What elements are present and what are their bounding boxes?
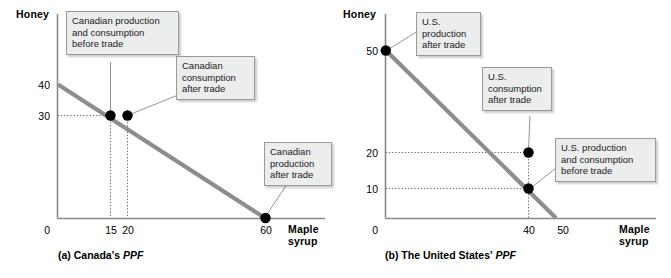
x-tick-40: 40 [514,224,544,236]
point-us-production-after-trade[interactable] [381,45,391,55]
x-tick-50: 50 [548,224,578,236]
chart-panel-united-states: Honey Maple syrup 50 20 10 0 40 50 U.S. … [340,0,671,278]
y-axis-title-honey: Honey [343,9,376,21]
y-tick-10: 10 [346,183,378,195]
panel-caption-us-ppf: PPF [495,249,515,261]
panel-caption-united-states: (b) The United States' PPF [385,249,516,261]
y-axis-title-honey: Honey [16,9,49,21]
callout-canada-production-after-trade[interactable]: Canadian production after trade [264,142,332,186]
leader-canada-consumption-after-trade [131,95,178,114]
callout-us-before-trade[interactable]: U.S. production and consumption before t… [555,138,656,182]
y-tick-40: 40 [18,79,50,91]
panel-caption-canada: (a) Canada's PPF [58,249,143,261]
origin-label: 0 [18,224,50,236]
chart-panel-canada: Honey Maple syrup 40 30 0 15 20 60 Canad… [0,0,340,278]
y-tick-50: 50 [346,45,378,57]
leader-us-consumption-after-trade [529,116,531,150]
leader-canada-production-after-trade [266,181,289,216]
x-axis-title-maple-syrup: Maple syrup [619,224,650,247]
x-tick-20: 20 [113,224,143,236]
point-us-consumption-after-trade[interactable] [523,147,533,157]
panel-caption-canada-ppf: PPF [123,249,143,261]
point-canada-consumption-after-trade[interactable] [122,110,132,120]
x-tick-60: 60 [251,224,281,236]
ppf-comparison-figure: Honey Maple syrup 40 30 0 15 20 60 Canad… [0,0,671,278]
y-tick-30: 30 [18,110,50,122]
point-canada-production-after-trade[interactable] [260,213,270,223]
panel-caption-canada-text: (a) Canada's [58,249,123,261]
y-tick-20: 20 [346,147,378,159]
callout-canada-consumption-after-trade[interactable]: Canadian consumption after trade [176,56,255,100]
callout-us-production-after-trade[interactable]: U.S. production after trade [416,12,481,56]
callout-canada-before-trade[interactable]: Canadian production and consumption befo… [66,11,179,55]
x-axis-title-maple-syrup: Maple syrup [288,224,319,247]
leader-us-before-trade [532,168,556,187]
point-us-before-trade[interactable] [523,183,533,193]
panel-caption-us-text: (b) The United States' [385,249,495,261]
leader-us-production-after-trade [389,31,418,49]
origin-label: 0 [346,224,378,236]
ppf-line-canada [58,85,265,219]
callout-us-consumption-after-trade[interactable]: U.S. consumption after trade [482,67,552,111]
point-canada-before-trade[interactable] [105,110,115,120]
